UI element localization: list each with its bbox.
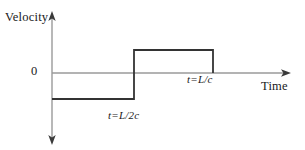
origin-zero-label: 0 (31, 64, 37, 79)
annotation-t-equals-L-over-2c: t=L/2c (108, 109, 139, 121)
x-axis-label: Time (261, 79, 288, 94)
velocity-time-figure: Velocity Time 0 t=L/2c t=L/c (0, 0, 305, 150)
annotation-t-equals-L-over-c: t=L/c (187, 73, 213, 85)
y-axis-label: Velocity (5, 10, 48, 25)
